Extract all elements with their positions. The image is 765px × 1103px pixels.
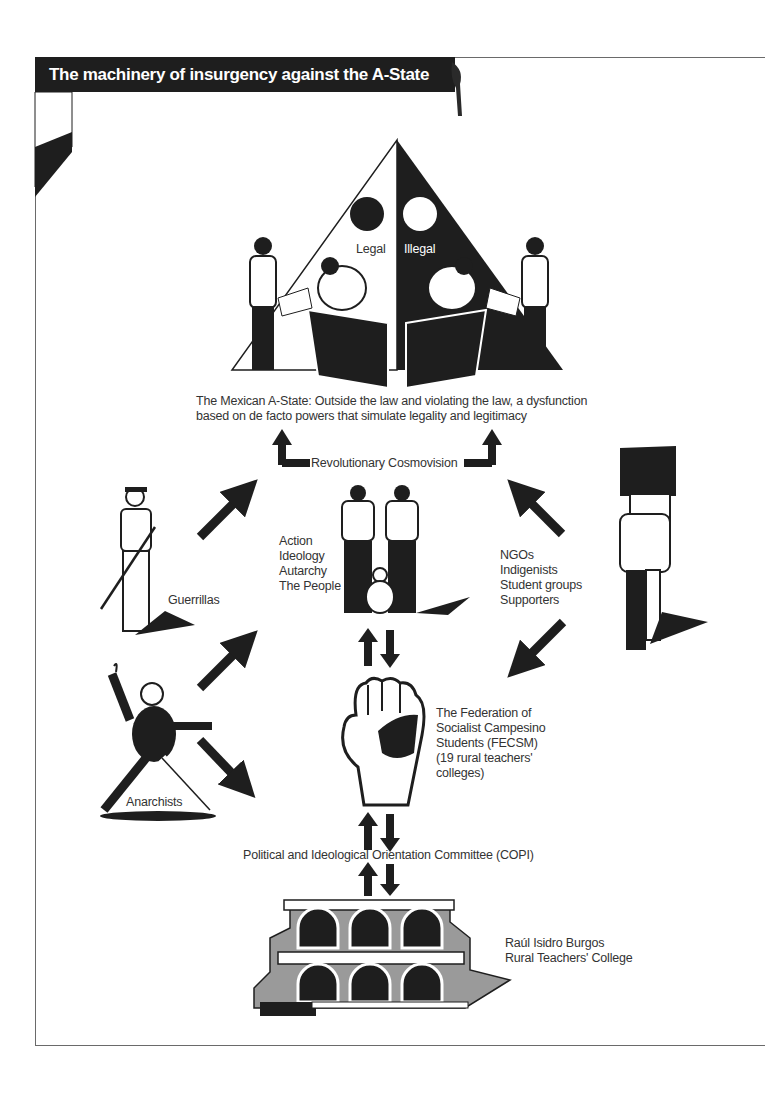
center-group-labels: Action Ideology Autarchy The People bbox=[279, 534, 341, 594]
guerrillas-label: Guerrillas bbox=[168, 593, 220, 608]
fecsm-labels: The Federation of Socialist Campesino St… bbox=[436, 706, 545, 781]
arrow-supporters-down bbox=[520, 622, 563, 665]
rural-college-building-icon bbox=[240, 898, 510, 1018]
right-group-labels: NGOs Indigenists Student groups Supporte… bbox=[500, 548, 582, 608]
guerrilla-figure-icon bbox=[95, 485, 205, 645]
copi-label: Political and Ideological Orientation Co… bbox=[243, 848, 534, 863]
college-labels: Raúl Isidro Burgos Rural Teachers' Colle… bbox=[505, 936, 633, 966]
arrow-supporters-up bbox=[520, 492, 562, 534]
anarchists-label: Anarchists bbox=[126, 795, 182, 810]
up-down-arrows-1 bbox=[355, 628, 405, 668]
protester-with-sign-icon bbox=[590, 444, 720, 654]
up-down-arrows-3 bbox=[355, 862, 405, 896]
the-people-figures-icon bbox=[330, 485, 480, 620]
up-down-arrows-2 bbox=[355, 812, 405, 852]
arrow-guerrillas-up bbox=[200, 492, 245, 537]
raised-fist-icon bbox=[336, 675, 436, 810]
